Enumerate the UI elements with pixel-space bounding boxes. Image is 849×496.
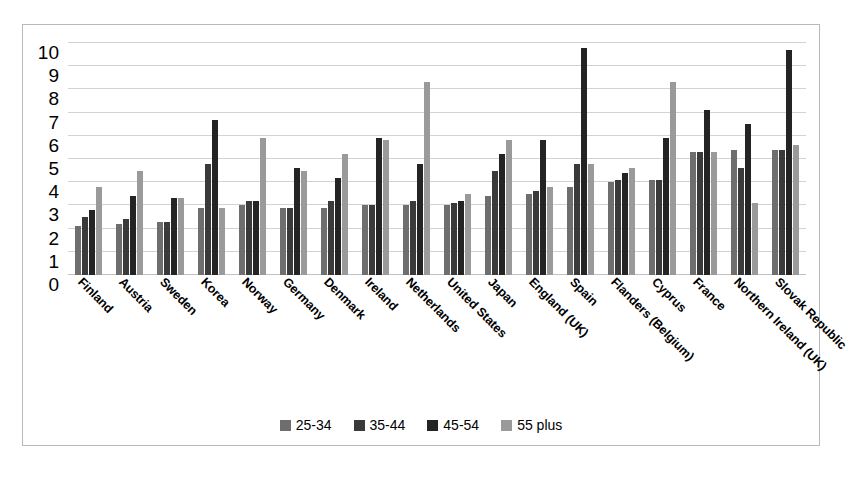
- bar-group: [608, 43, 635, 275]
- bar: [294, 168, 300, 275]
- bar: [205, 164, 211, 275]
- bar-group: [239, 43, 266, 275]
- x-tick-label: Ireland: [362, 275, 400, 313]
- bars-layer: [68, 43, 806, 275]
- bar: [547, 187, 553, 275]
- x-tick-label: Cyprus: [649, 275, 689, 315]
- bar: [219, 208, 225, 275]
- bar: [82, 217, 88, 275]
- bar: [581, 48, 587, 275]
- bar: [239, 205, 245, 275]
- bar: [485, 196, 491, 275]
- legend-swatch-icon: [501, 420, 512, 431]
- legend-label: 45-54: [443, 417, 479, 433]
- plot-area: [68, 43, 806, 275]
- bar: [96, 187, 102, 275]
- bar: [376, 138, 382, 275]
- bar: [567, 187, 573, 275]
- legend-item[interactable]: 35-44: [354, 417, 406, 433]
- bar: [328, 201, 334, 275]
- bar-group: [116, 43, 143, 275]
- x-tick-label: Japan: [485, 275, 520, 310]
- bar: [164, 222, 170, 275]
- legend-item[interactable]: 55 plus: [501, 417, 562, 433]
- bar: [451, 203, 457, 275]
- bar: [171, 198, 177, 275]
- x-tick-label: Austria: [116, 275, 156, 315]
- bar: [526, 194, 532, 275]
- legend-swatch-icon: [427, 420, 438, 431]
- x-tick-label: Finland: [75, 275, 116, 316]
- bar: [89, 210, 95, 275]
- bar: [410, 201, 416, 275]
- bar: [711, 152, 717, 275]
- legend-label: 55 plus: [517, 417, 562, 433]
- bar: [362, 205, 368, 275]
- x-tick-label: France: [690, 275, 728, 313]
- chart-frame: 012345678910 FinlandAustriaSwedenKoreaNo…: [22, 24, 820, 446]
- bar: [649, 180, 655, 275]
- bar: [301, 171, 307, 275]
- legend-label: 25-34: [296, 417, 332, 433]
- bar: [697, 152, 703, 275]
- bar-group: [526, 43, 553, 275]
- x-tick-label: Germany: [280, 275, 328, 323]
- bar: [608, 182, 614, 275]
- bar: [465, 194, 471, 275]
- bar: [75, 226, 81, 275]
- bar: [738, 168, 744, 275]
- bar: [424, 82, 430, 275]
- bar: [793, 145, 799, 275]
- bar: [772, 150, 778, 275]
- bar: [492, 171, 498, 275]
- bar-group: [690, 43, 717, 275]
- bar-group: [403, 43, 430, 275]
- bar-group: [157, 43, 184, 275]
- bar: [417, 164, 423, 275]
- bar: [458, 201, 464, 275]
- y-axis-tick-labels: 012345678910: [23, 43, 65, 275]
- bar: [260, 138, 266, 275]
- bar: [779, 150, 785, 275]
- bar-group: [649, 43, 676, 275]
- bar: [116, 224, 122, 275]
- bar-group: [75, 43, 102, 275]
- bar: [137, 171, 143, 275]
- bar: [403, 205, 409, 275]
- bar: [506, 140, 512, 275]
- x-axis-category-labels: FinlandAustriaSwedenKoreaNorwayGermanyDe…: [68, 275, 806, 395]
- x-tick-label: Korea: [198, 275, 233, 310]
- legend-item[interactable]: 25-34: [280, 417, 332, 433]
- bar: [690, 152, 696, 275]
- bar: [745, 124, 751, 275]
- legend-label: 35-44: [370, 417, 406, 433]
- legend-swatch-icon: [354, 420, 365, 431]
- chart-legend: 25-3435-4445-5455 plus: [23, 417, 819, 433]
- bar: [321, 208, 327, 275]
- bar: [383, 140, 389, 275]
- bar: [342, 154, 348, 275]
- bar-group: [567, 43, 594, 275]
- bar: [253, 201, 259, 275]
- bar: [178, 198, 184, 275]
- bar: [752, 203, 758, 275]
- x-tick-label: Sweden: [157, 275, 200, 318]
- bar-group: [321, 43, 348, 275]
- bar-group: [485, 43, 512, 275]
- bar: [123, 219, 129, 275]
- bar-group: [198, 43, 225, 275]
- bar: [444, 205, 450, 275]
- bar: [369, 205, 375, 275]
- bar-group: [444, 43, 471, 275]
- bar: [629, 168, 635, 275]
- bar-group: [280, 43, 307, 275]
- bar: [533, 191, 539, 275]
- bar-group: [731, 43, 758, 275]
- bar: [670, 82, 676, 275]
- bar: [615, 180, 621, 275]
- bar: [280, 208, 286, 275]
- legend-item[interactable]: 45-54: [427, 417, 479, 433]
- bar: [246, 201, 252, 275]
- bar: [731, 150, 737, 275]
